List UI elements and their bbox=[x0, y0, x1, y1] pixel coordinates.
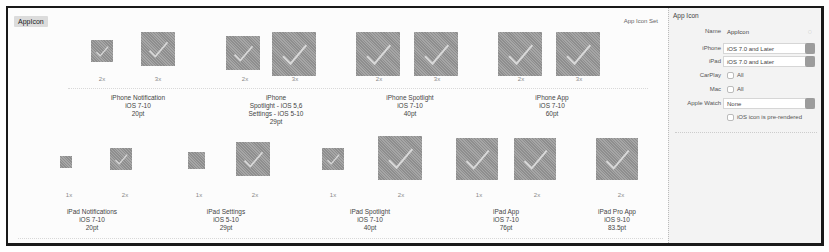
group-title: iPad NotificationsiOS 7-1020pt bbox=[32, 208, 152, 232]
icon-slot-2x[interactable] bbox=[356, 32, 400, 76]
checkmark-icon bbox=[110, 148, 132, 170]
scale-label: 3x bbox=[280, 76, 310, 82]
mac-row: Mac All bbox=[669, 84, 821, 96]
iphone-version-popup[interactable]: iOS 7.0 and Later bbox=[723, 43, 815, 54]
mac-all-checkbox[interactable] bbox=[727, 86, 734, 93]
iphone-row: iPhone iOS 7.0 and Later bbox=[669, 43, 821, 55]
group-title: iPad Pro AppiOS 9-1083.5pt bbox=[557, 208, 677, 232]
icon-slot-3x[interactable] bbox=[556, 32, 600, 76]
inspector-separator bbox=[675, 132, 817, 133]
group-title: iPhone NotificationiOS 7-1020pt bbox=[78, 94, 198, 118]
mac-all-label: All bbox=[737, 86, 744, 92]
group-title: iPhone SpotlightiOS 7-1040pt bbox=[350, 94, 470, 118]
checkmark-icon bbox=[456, 138, 498, 180]
bottom-divider bbox=[18, 238, 663, 239]
apple-watch-label: Apple Watch bbox=[687, 100, 721, 106]
clear-icon[interactable]: ◌ bbox=[808, 28, 812, 35]
scale-label: 1x bbox=[318, 192, 348, 198]
icon-slot-1x[interactable] bbox=[322, 148, 344, 170]
carplay-all-checkbox[interactable] bbox=[727, 72, 734, 79]
name-row: Name AppIcon ◌ bbox=[669, 26, 821, 38]
attributes-inspector: App Icon Name AppIcon ◌ iPhone iOS 7.0 a… bbox=[668, 8, 821, 243]
icon-slot-1x[interactable] bbox=[60, 156, 72, 168]
scale-label: 3x bbox=[564, 76, 594, 82]
checkmark-icon bbox=[236, 142, 270, 176]
icon-slot-3x[interactable] bbox=[272, 32, 316, 76]
scale-label: 2x bbox=[606, 192, 636, 198]
checkmark-icon bbox=[378, 136, 422, 180]
scale-label: 2x bbox=[506, 76, 536, 82]
row-divider bbox=[68, 88, 648, 89]
scale-label: 2x bbox=[110, 192, 140, 198]
ipad-row: iPad iOS 7.0 and Later bbox=[669, 56, 821, 68]
scale-label: 2x bbox=[230, 76, 260, 82]
icon-set-kind-label: App Icon Set bbox=[624, 18, 658, 24]
iphone-label: iPhone bbox=[702, 45, 721, 51]
name-field[interactable]: AppIcon ◌ bbox=[723, 26, 815, 37]
popup-arrows-icon bbox=[805, 98, 815, 109]
inspector-title: App Icon bbox=[673, 12, 699, 19]
icon-slot-1x[interactable] bbox=[188, 152, 205, 169]
checkmark-icon bbox=[596, 138, 638, 180]
icon-set-editor: AppIcon App Icon Set 2x 3x iPhone Notifi… bbox=[8, 8, 668, 243]
scale-label: 2x bbox=[87, 76, 117, 82]
icon-slot-2x[interactable] bbox=[498, 32, 542, 76]
checkmark-icon bbox=[414, 32, 458, 76]
scale-label: 3x bbox=[143, 76, 173, 82]
scale-label: 3x bbox=[422, 76, 452, 82]
checkmark-icon bbox=[272, 32, 316, 76]
asset-catalog-window: AppIcon App Icon Set 2x 3x iPhone Notifi… bbox=[6, 6, 824, 246]
group-title: iPad SettingsiOS 5-1029pt bbox=[166, 208, 286, 232]
carplay-all-label: All bbox=[737, 72, 744, 78]
checkmark-icon bbox=[356, 32, 400, 76]
icon-slot-2x[interactable] bbox=[378, 136, 422, 180]
prerendered-checkbox[interactable] bbox=[727, 114, 734, 121]
checkmark-icon bbox=[498, 32, 542, 76]
carplay-row: CarPlay All bbox=[669, 70, 821, 82]
apple-watch-row: Apple Watch None bbox=[669, 98, 821, 110]
name-label: Name bbox=[705, 28, 721, 34]
scale-label: 2x bbox=[522, 192, 552, 198]
popup-arrows-icon bbox=[805, 43, 815, 54]
icon-slot-2x[interactable] bbox=[110, 148, 132, 170]
ipad-label: iPad bbox=[709, 58, 721, 64]
ipad-version-popup[interactable]: iOS 7.0 and Later bbox=[723, 56, 815, 67]
group-title: iPhone AppiOS 7-1060pt bbox=[492, 94, 612, 118]
scale-label: 2x bbox=[386, 192, 416, 198]
group-title: iPad SpotlightiOS 7-1040pt bbox=[310, 208, 430, 232]
group-title: iPhoneSpotlight - iOS 5,6Settings - iOS … bbox=[216, 94, 336, 126]
checkmark-icon bbox=[141, 32, 175, 66]
scale-label: 1x bbox=[464, 192, 494, 198]
group-title: iPad AppiOS 7-1076pt bbox=[446, 208, 566, 232]
icon-slot-2x[interactable] bbox=[236, 142, 270, 176]
icon-slot-2x[interactable] bbox=[514, 138, 556, 180]
icon-slot-2x[interactable] bbox=[596, 138, 638, 180]
mac-label: Mac bbox=[710, 86, 721, 92]
icon-slot-1x[interactable] bbox=[456, 138, 498, 180]
prerendered-row: iOS icon is pre-rendered bbox=[669, 112, 821, 124]
icon-slot-3x[interactable] bbox=[414, 32, 458, 76]
checkmark-icon bbox=[514, 138, 556, 180]
scale-label: 2x bbox=[240, 192, 270, 198]
icon-slot-3x[interactable] bbox=[141, 32, 175, 66]
scale-label: 1x bbox=[184, 192, 214, 198]
carplay-label: CarPlay bbox=[700, 72, 721, 78]
apple-watch-popup[interactable]: None bbox=[723, 98, 815, 109]
checkmark-icon bbox=[226, 36, 260, 70]
checkmark-icon bbox=[556, 32, 600, 76]
scale-label: 2x bbox=[364, 76, 394, 82]
scale-label: 1x bbox=[54, 192, 84, 198]
prerendered-label: iOS icon is pre-rendered bbox=[737, 114, 802, 120]
checkmark-icon bbox=[91, 40, 113, 62]
checkmark-icon bbox=[322, 148, 344, 170]
icon-slot-2x[interactable] bbox=[91, 40, 113, 62]
icon-slot-2x[interactable] bbox=[226, 36, 260, 70]
popup-arrows-icon bbox=[805, 56, 815, 67]
icon-set-name-tag[interactable]: AppIcon bbox=[14, 16, 48, 27]
